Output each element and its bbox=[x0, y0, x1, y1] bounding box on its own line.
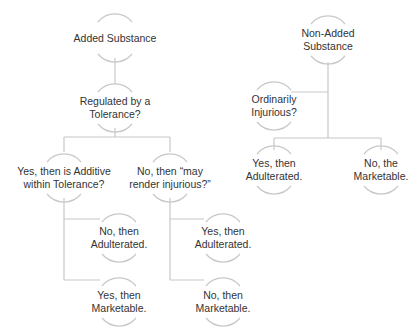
node-arc-top bbox=[98, 14, 132, 22]
node-label-line: Yes, then bbox=[92, 289, 147, 302]
node-yes-adult2: Yes, thenAdulterated. bbox=[195, 225, 252, 251]
node-arc-bottom bbox=[257, 122, 291, 130]
node-no-adult: No, thenAdulterated. bbox=[91, 225, 148, 251]
node-label-line: within Tolerance? bbox=[17, 178, 111, 191]
node-arc-top bbox=[47, 154, 81, 162]
node-label-line: Non-Added bbox=[301, 27, 354, 40]
node-arc-top bbox=[153, 154, 187, 162]
node-label-line: Adulterated. bbox=[246, 170, 303, 183]
node-yes-market: Yes, thenMarketable. bbox=[92, 289, 147, 315]
node-regulated: Regulated by aTolerance? bbox=[80, 95, 151, 121]
node-arc-bottom bbox=[102, 254, 136, 262]
node-label-line: Marketable. bbox=[354, 170, 409, 183]
node-yes-additive: Yes, then is Additivewithin Tolerance? bbox=[17, 165, 111, 191]
node-label-line: No, then “may bbox=[129, 165, 211, 178]
node-label-line: Adulterated. bbox=[195, 238, 252, 251]
node-arc-top bbox=[311, 16, 345, 24]
node-label-line: No, then bbox=[91, 225, 148, 238]
node-label-line: render injurious?” bbox=[129, 178, 211, 191]
decision-tree-diagram: Added SubstanceRegulated by aTolerance?Y… bbox=[0, 0, 420, 335]
node-label-line: Yes, then is Additive bbox=[17, 165, 111, 178]
node-label-line: Tolerance? bbox=[80, 108, 151, 121]
node-label-line: No, then bbox=[196, 289, 251, 302]
node-label-line: Yes, then bbox=[246, 157, 303, 170]
node-nonadded: Non-AddedSubstance bbox=[301, 27, 354, 53]
node-ordinarily: OrdinarilyInjurious? bbox=[251, 93, 297, 119]
node-arc-bottom bbox=[206, 254, 240, 262]
node-arc-bottom bbox=[257, 186, 291, 194]
node-label-line: Marketable. bbox=[196, 302, 251, 315]
node-label-line: Added Substance bbox=[74, 32, 157, 45]
node-arc-bottom bbox=[364, 186, 398, 194]
node-arc-top bbox=[102, 214, 136, 222]
node-label-line: Yes, then bbox=[195, 225, 252, 238]
node-arc-top bbox=[206, 278, 240, 286]
node-label-line: Adulterated. bbox=[91, 238, 148, 251]
node-label-line: Marketable. bbox=[92, 302, 147, 315]
node-arc-top bbox=[102, 278, 136, 286]
node-arc-bottom bbox=[102, 318, 136, 326]
node-arc-top bbox=[257, 82, 291, 90]
node-label-line: Ordinarily bbox=[251, 93, 297, 106]
node-arc-top bbox=[98, 84, 132, 92]
node-yes-adult3: Yes, thenAdulterated. bbox=[246, 157, 303, 183]
node-label-line: Substance bbox=[301, 40, 354, 53]
node-arc-top bbox=[206, 214, 240, 222]
node-label-line: Injurious? bbox=[251, 106, 297, 119]
node-no-render: No, then “mayrender injurious?” bbox=[129, 165, 211, 191]
node-no-market2: No, thenMarketable. bbox=[196, 289, 251, 315]
node-label-line: Regulated by a bbox=[80, 95, 151, 108]
node-label-line: No, the bbox=[354, 157, 409, 170]
node-arc-bottom bbox=[206, 318, 240, 326]
node-no-market3: No, theMarketable. bbox=[354, 157, 409, 183]
node-added: Added Substance bbox=[74, 32, 157, 45]
